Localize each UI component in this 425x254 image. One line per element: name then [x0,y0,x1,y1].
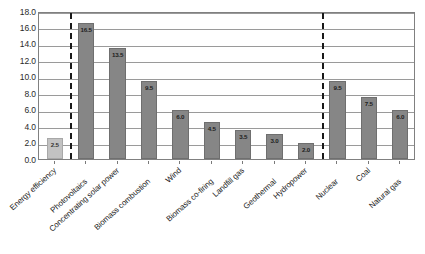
bar: 9.5 [141,81,157,159]
bar: 3.5 [235,130,251,159]
bar: 13.5 [109,48,125,159]
x-axis-tick-mark [54,161,55,164]
plot-area: 2.516.513.59.56.04.53.53.02.09.57.56.0 [38,12,415,160]
bar-value-label: 9.5 [330,84,344,91]
y-axis-tick-label: 6.0 [2,106,36,115]
x-axis-tick-mark [274,161,275,164]
bar: 2.0 [298,143,314,159]
bar-series: 2.516.513.59.56.04.53.53.02.09.57.56.0 [39,13,414,159]
bar: 9.5 [329,81,345,159]
y-axis-tick-label: 4.0 [2,123,36,132]
bar-value-label: 2.5 [48,141,62,148]
bar-value-label: 2.0 [299,146,313,153]
x-axis-tick-mark [148,161,149,164]
bar-value-label: 3.5 [236,133,250,140]
figure-caption [6,245,419,254]
x-axis-tick-label: Nuclear [314,177,340,202]
x-axis: Energy efficiencyPhotovoltaicsConcentrat… [38,161,415,236]
bar: 7.5 [361,97,377,159]
x-axis-tick-label: Natural gas [368,177,404,210]
bar: 6.0 [172,110,188,159]
y-axis-tick-label: 8.0 [2,90,36,99]
x-axis-tick-mark [336,161,337,164]
y-axis-tick-label: 18.0 [2,8,36,17]
y-axis-tick-label: 14.0 [2,40,36,49]
x-axis-tick-label: Landfill gas [211,166,246,199]
bar-value-label: 3.0 [267,137,281,144]
x-axis-tick-mark [85,161,86,164]
x-axis-tick-mark [305,161,306,164]
x-axis-tick-label: Coal [354,166,372,183]
x-axis-tick-mark [368,161,369,164]
x-axis-tick-mark [117,161,118,164]
bar-value-label: 6.0 [173,113,187,120]
bar-value-label: 6.0 [393,113,407,120]
bar-value-label: 4.5 [205,125,219,132]
y-axis: 18.016.014.012.010.08.06.04.02.00.0 [0,0,36,170]
x-axis-tick-label: Wind [164,166,183,185]
y-axis-tick-label: 10.0 [2,73,36,82]
x-axis-tick-mark [399,161,400,164]
bar-value-label: 13.5 [110,51,124,58]
x-axis-tick-mark [179,161,180,164]
bar: 2.5 [47,138,63,159]
bar: 3.0 [266,134,282,159]
bar: 16.5 [78,23,94,159]
y-axis-tick-label: 0.0 [2,156,36,165]
bar-value-label: 7.5 [362,100,376,107]
x-axis-tick-mark [242,161,243,164]
x-axis-tick-mark [211,161,212,164]
y-axis-tick-label: 16.0 [2,24,36,33]
chart-figure: 18.016.014.012.010.08.06.04.02.00.0 2.51… [0,0,425,254]
y-axis-tick-label: 2.0 [2,139,36,148]
bar-value-label: 16.5 [79,26,93,33]
y-axis-tick-label: 12.0 [2,57,36,66]
bar: 6.0 [392,110,408,159]
x-axis-tick-label: Biomass co-firing [164,177,214,224]
bar-value-label: 9.5 [142,84,156,91]
bar: 4.5 [204,122,220,159]
